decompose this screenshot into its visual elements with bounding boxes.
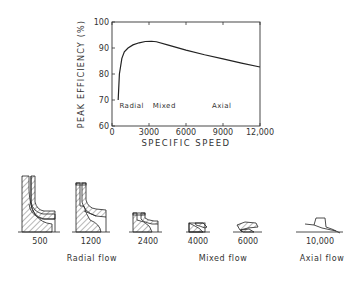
impeller-4000 <box>189 223 207 232</box>
x-axis-label: SPECIFIC SPEED <box>141 138 230 148</box>
y-tick-label: 90 <box>99 44 109 53</box>
region-annotation: Mixed <box>153 102 176 110</box>
region-annotation: Axial <box>212 102 232 110</box>
x-tick-label: 0 <box>109 128 114 137</box>
y-tick-label: 100 <box>94 18 109 27</box>
efficiency-chart: 60708090100 030006000900012,000 RadialMi… <box>77 18 274 148</box>
y-tick-label: 60 <box>99 122 109 131</box>
group-label-axial: Axial flow <box>300 254 345 263</box>
x-tick-label: 12,000 <box>246 128 274 137</box>
group-label-mixed: Mixed flow <box>199 254 248 263</box>
y-axis-label: PEAK EFFICIENCY (%) <box>77 20 86 128</box>
impeller-2400 <box>133 213 158 232</box>
region-annotation: Radial <box>119 102 144 110</box>
impeller-6000 <box>237 222 258 232</box>
impeller-1200 <box>76 183 106 232</box>
efficiency-curve <box>118 41 260 100</box>
y-tick-label: 70 <box>99 96 109 105</box>
impeller-500 <box>22 176 55 232</box>
x-tick-label: 6000 <box>176 128 196 137</box>
impeller-label-2400: 2400 <box>138 237 158 246</box>
impeller-label-4000: 4000 <box>188 237 208 246</box>
impeller-label-10000: 10,000 <box>306 237 334 246</box>
group-label-radial: Radial flow <box>67 254 117 263</box>
impeller-label-500: 500 <box>32 237 47 246</box>
x-tick-label: 3000 <box>139 128 159 137</box>
y-tick-label: 80 <box>99 70 109 79</box>
impeller-10000 <box>305 218 340 233</box>
impeller-label-1200: 1200 <box>81 237 101 246</box>
plot-frame <box>112 22 260 126</box>
impeller-label-6000: 6000 <box>238 237 258 246</box>
figure: 60708090100 030006000900012,000 RadialMi… <box>0 0 359 288</box>
x-tick-label: 9000 <box>213 128 233 137</box>
